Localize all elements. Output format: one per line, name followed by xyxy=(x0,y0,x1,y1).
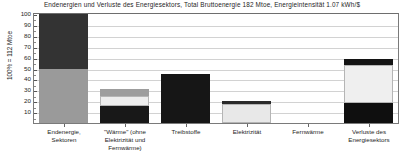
y-axis-tick-label: 40 xyxy=(11,76,31,82)
y-axis-tick xyxy=(34,91,37,92)
y-axis-minor-tick xyxy=(34,64,36,65)
x-axis-tick xyxy=(308,124,309,127)
gridline xyxy=(34,48,398,49)
y-axis-minor-tick xyxy=(34,108,36,109)
x-axis-tick xyxy=(64,124,65,127)
y-axis-tick-label: 100 xyxy=(11,11,31,17)
y-axis-tick-label: 30 xyxy=(11,87,31,93)
y-axis-tick-label: 10 xyxy=(11,109,31,115)
y-axis-minor-tick xyxy=(34,86,36,87)
x-axis-tick xyxy=(186,124,187,127)
y-axis-tick-label: 80 xyxy=(11,33,31,39)
x-axis-label-line: Verluste des xyxy=(332,128,404,136)
gridline xyxy=(34,37,398,38)
y-axis-tick xyxy=(34,59,37,60)
x-axis-tick xyxy=(247,124,248,127)
x-axis-tick xyxy=(369,124,370,127)
x-axis-tick xyxy=(125,124,126,127)
y-axis-minor-tick xyxy=(34,119,36,120)
y-axis-tick xyxy=(34,70,37,71)
gridline xyxy=(34,80,398,81)
y-axis-minor-tick xyxy=(34,75,36,76)
gridline xyxy=(34,113,398,114)
y-axis-minor-tick xyxy=(34,42,36,43)
y-axis-tick xyxy=(34,15,37,16)
y-axis-tick-label: 20 xyxy=(11,98,31,104)
x-axis-category-labels: Endenergie,Sektoren"Wärme" (ohneElektriz… xyxy=(33,128,399,159)
y-axis-minor-tick xyxy=(34,20,36,21)
plot-area xyxy=(33,13,399,124)
y-axis-tick xyxy=(34,102,37,103)
x-axis-label-line: Fernwärme) xyxy=(88,144,162,152)
gridline xyxy=(34,70,398,71)
chart-container: Endenergien und Verluste des Energiesekt… xyxy=(0,0,404,159)
y-axis-tick xyxy=(34,80,37,81)
y-axis-tick xyxy=(34,37,37,38)
y-axis-tick-labels: 102030405060708090100 xyxy=(9,13,31,124)
y-axis-tick xyxy=(34,48,37,49)
y-axis-minor-tick xyxy=(34,53,36,54)
y-axis-tick-label: 50 xyxy=(11,66,31,72)
y-axis-tick-label: 70 xyxy=(11,44,31,50)
y-axis-tick-label: 60 xyxy=(11,55,31,61)
x-axis-label-line: Elektrizität und xyxy=(88,136,162,144)
y-axis-tick xyxy=(34,113,37,114)
gridline xyxy=(34,59,398,60)
x-axis-label-6: Verluste desEnergiesektors xyxy=(332,128,404,144)
gridline xyxy=(34,91,398,92)
x-axis-label-line: Energiesektors xyxy=(332,136,404,144)
y-axis-minor-tick xyxy=(34,97,36,98)
y-axis-minor-tick xyxy=(34,31,36,32)
chart-title: Endenergien und Verluste des Energiesekt… xyxy=(0,1,404,8)
y-axis-tick xyxy=(34,26,37,27)
gridline xyxy=(34,102,398,103)
y-axis-tick-label: 90 xyxy=(11,22,31,28)
gridline xyxy=(34,26,398,27)
